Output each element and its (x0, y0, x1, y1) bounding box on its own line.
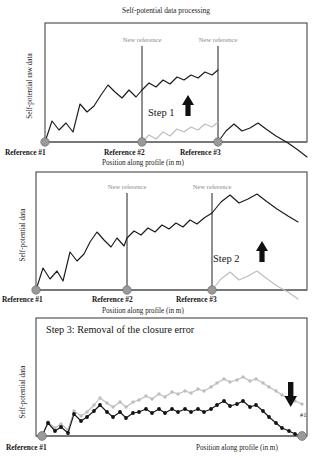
panel-2-step-arrow-up-icon (256, 241, 268, 262)
panel-2-reference-dot-2 (123, 286, 131, 294)
panel-3: Step 3: Removal of the closure error (6, 318, 307, 452)
panel-1-step-label: Step 1 (148, 107, 175, 118)
panel-2-reference-label-1: Reference #1 (2, 295, 43, 304)
panel-3-before-correction-curve (42, 377, 302, 436)
panel-3-frame (36, 318, 307, 436)
panel-2-reference-label-3: Reference #3 (176, 295, 217, 304)
figure-title: Self-potential data processing (122, 6, 210, 15)
panel-2-y-axis-label: Self-potential data (19, 208, 27, 262)
panel-2-new-reference-label-1: New reference (108, 183, 147, 190)
panel-2: New reference New reference Step 2 Self-… (2, 172, 307, 315)
panel-1-reference-label-3: Reference #3 (180, 148, 221, 157)
panel-2-segment-3-corrected-curve (212, 194, 298, 222)
panel-2-new-reference-label-2: New reference (193, 183, 232, 190)
panel-3-step-arrow-down-icon (284, 382, 297, 407)
panel-2-reference-dot-3 (208, 286, 216, 294)
panel-3-endpoint-label: #1 (300, 411, 306, 418)
figure-canvas: Self-potential data processing New refer… (0, 0, 325, 459)
panel-2-merged-curve (36, 213, 212, 290)
panel-1: New reference New reference Step 1 Self-… (5, 23, 307, 167)
panel-3-x-axis-label: Position along profile (in m) (196, 444, 278, 452)
panel-3-after-correction-curve (42, 401, 302, 436)
panel-1-segment-1-curve (45, 85, 142, 142)
panel-3-reference-dot-1 (38, 432, 47, 441)
panel-2-x-axis-label: Position along profile (in m) (102, 307, 184, 315)
panel-2-segment-3-uncorrected-curve (212, 271, 298, 299)
panel-1-new-reference-label-2: New reference (199, 36, 238, 43)
panel-2-step-label: Step 2 (213, 253, 240, 264)
self-potential-figure: Self-potential data processing New refer… (0, 0, 325, 459)
panel-3-step-label: Step 3: Removal of the closure error (46, 324, 195, 335)
panel-1-reference-dot-3 (214, 138, 222, 146)
panel-3-reference-label-1: Reference #1 (6, 443, 47, 452)
panel-1-step-arrow-up-icon (182, 95, 194, 116)
panel-2-reference-dot-1 (32, 286, 40, 294)
panel-1-reference-label-2: Reference #2 (104, 148, 145, 157)
panel-1-x-axis-label: Position along profile (in m) (102, 159, 184, 167)
panel-1-reference-dot-2 (138, 138, 146, 146)
panel-1-new-reference-label-1: New reference (123, 36, 162, 43)
panel-1-segment-3-curve (218, 123, 307, 157)
panel-2-reference-label-2: Reference #2 (92, 295, 133, 304)
panel-3-y-axis-label: Self-potential data (19, 365, 27, 419)
panel-3-endpoint-dot (298, 432, 307, 441)
panel-1-frame (45, 23, 307, 142)
panel-1-segment-2-corrected-curve (142, 70, 218, 90)
panel-3-before-correction-markers (40, 375, 303, 437)
panel-1-segment-2-uncorrected-curve (142, 122, 218, 142)
panel-1-y-axis-label: Self-potential raw data (26, 52, 34, 118)
panel-2-frame (36, 172, 307, 290)
panel-1-reference-dot-1 (41, 138, 49, 146)
panel-1-reference-label-1: Reference #1 (5, 148, 46, 157)
